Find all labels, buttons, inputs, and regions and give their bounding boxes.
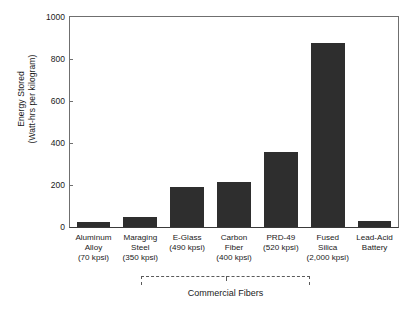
- y-tick-label: 200: [31, 181, 65, 190]
- bar[interactable]: [217, 182, 251, 227]
- bar[interactable]: [358, 221, 392, 227]
- bar[interactable]: [311, 43, 345, 227]
- commercial-fibers-bracket: [141, 276, 310, 285]
- bar[interactable]: [264, 152, 298, 227]
- bar-slot: [70, 17, 117, 227]
- bar[interactable]: [77, 222, 111, 227]
- y-tick-label: 800: [31, 55, 65, 64]
- bar-slot: [257, 17, 304, 227]
- bar[interactable]: [123, 217, 157, 228]
- bar-chart-figure: Energy Stored (Watt-hrs per kilogram) 02…: [0, 0, 408, 310]
- bar-slot: [304, 17, 351, 227]
- bar-slot: [164, 17, 211, 227]
- y-tick-label: 400: [31, 139, 65, 148]
- y-tick-label: 1000: [31, 13, 65, 22]
- bar-slot: [351, 17, 398, 227]
- bar-series: [70, 17, 398, 227]
- y-tick-label: 600: [31, 97, 65, 106]
- x-axis-group-label: Commercial Fibers: [141, 288, 310, 299]
- bar[interactable]: [170, 187, 204, 227]
- x-tick-label: Lead-Acid Battery: [345, 233, 404, 253]
- bar-slot: [211, 17, 258, 227]
- y-tick-label: 0: [31, 223, 65, 232]
- bar-slot: [117, 17, 164, 227]
- bracket-center-tick: [226, 276, 227, 281]
